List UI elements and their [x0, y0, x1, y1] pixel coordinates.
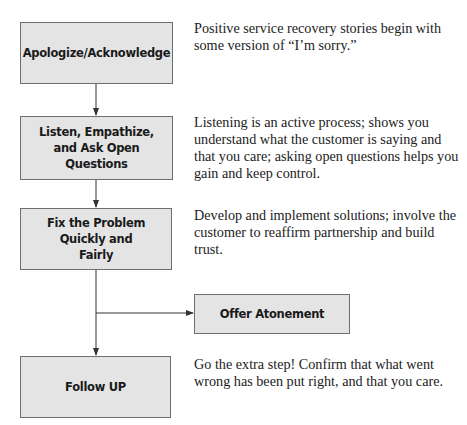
offer-atonement-box: Offer Atonement: [194, 294, 350, 334]
step-label: Apologize/Acknowledge: [23, 45, 171, 61]
step-description: Listening is an active process; shows yo…: [194, 114, 462, 182]
step-description: Go the extra step! Confirm that what wen…: [194, 356, 462, 390]
step-label: Fix the Problem Quickly and Fairly: [41, 215, 151, 263]
step-fix-box: Fix the Problem Quickly and Fairly: [20, 208, 172, 270]
step-follow-up-box: Follow UP: [20, 356, 171, 418]
step-apologize-box: Apologize/Acknowledge: [20, 22, 173, 84]
branch-label: Offer Atonement: [220, 306, 325, 322]
step-listen-box: Listen, Empathize, and Ask Open Question…: [20, 116, 173, 180]
step-description: Positive service recovery stories begin …: [194, 20, 454, 54]
step-description: Develop and implement solutions; involve…: [194, 207, 459, 258]
step-label: Follow UP: [65, 379, 126, 395]
step-label: Listen, Empathize, and Ask Open Question…: [32, 124, 162, 172]
